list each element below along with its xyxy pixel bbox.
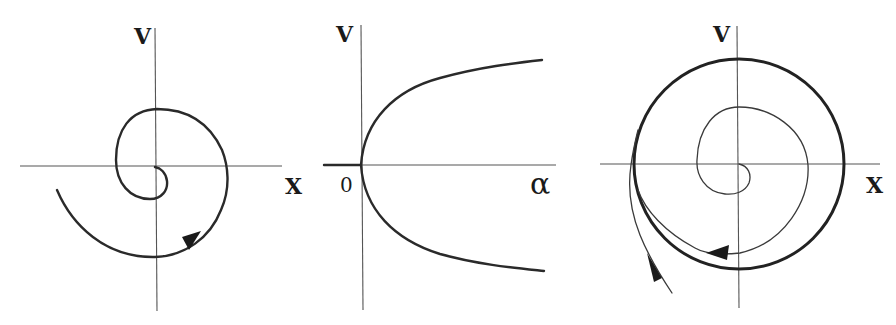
y-axis-label: V	[133, 23, 152, 49]
inner-trajectory	[638, 107, 808, 254]
upper-branch	[361, 60, 542, 165]
spiral-trajectory	[57, 109, 228, 257]
panel-stable-focus: V X	[20, 23, 303, 311]
panel-limit-cycle: V X	[600, 21, 884, 308]
figure: V X V 0 α V X	[0, 0, 896, 325]
lower-branch	[361, 165, 544, 271]
y-axis	[737, 26, 739, 308]
y-axis	[155, 28, 157, 311]
y-axis-label: V	[712, 21, 731, 47]
panel-bifurcation: V 0 α	[324, 21, 556, 310]
x-axis-label: X	[866, 172, 884, 198]
x-axis-label: α	[530, 166, 550, 201]
y-axis-label: V	[335, 21, 354, 47]
inner-direction-arrow	[706, 245, 729, 260]
outer-direction-arrow	[647, 253, 662, 282]
x-axis-label: X	[285, 173, 303, 199]
origin-label: 0	[340, 173, 353, 197]
